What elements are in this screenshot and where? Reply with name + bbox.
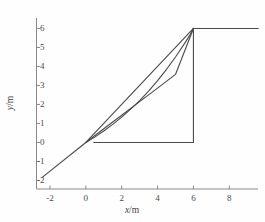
data-series-group — [42, 28, 258, 177]
y-axis-title-var: y — [5, 106, 15, 110]
x-tick-label: 6 — [191, 194, 196, 203]
y-axis-title: y/m — [6, 96, 16, 110]
x-axis-title: x/m — [125, 206, 139, 216]
x-tick-label: 0 — [84, 194, 89, 203]
x-tick-label: -2 — [46, 194, 54, 203]
y-tick-label: 3 — [31, 81, 45, 90]
series-straight-ramp — [42, 28, 258, 177]
x-tick-label: 4 — [155, 194, 160, 203]
y-tick-label: 5 — [31, 43, 45, 52]
y-tick-label: 4 — [31, 62, 45, 71]
x-tick-label: 8 — [227, 194, 232, 203]
plot-canvas — [0, 0, 265, 222]
y-axis-title-sep: / — [5, 103, 15, 106]
y-tick-label: 2 — [31, 100, 45, 109]
x-tick-label: 2 — [119, 194, 124, 203]
y-tick-label: 0 — [31, 138, 45, 147]
y-axis-title-unit: m — [5, 96, 15, 103]
figure-container: -202468 -2-10123456 x/m y/m — [0, 0, 265, 222]
y-tick-label: -1 — [31, 157, 45, 166]
y-tick-label: -2 — [31, 176, 45, 185]
axis-spines — [37, 18, 259, 189]
y-tick-label: 6 — [31, 24, 45, 33]
x-axis-title-unit: m — [132, 205, 139, 215]
series-upper-chord — [86, 28, 194, 142]
x-axis-ticks — [50, 186, 229, 190]
y-tick-label: 1 — [31, 119, 45, 128]
